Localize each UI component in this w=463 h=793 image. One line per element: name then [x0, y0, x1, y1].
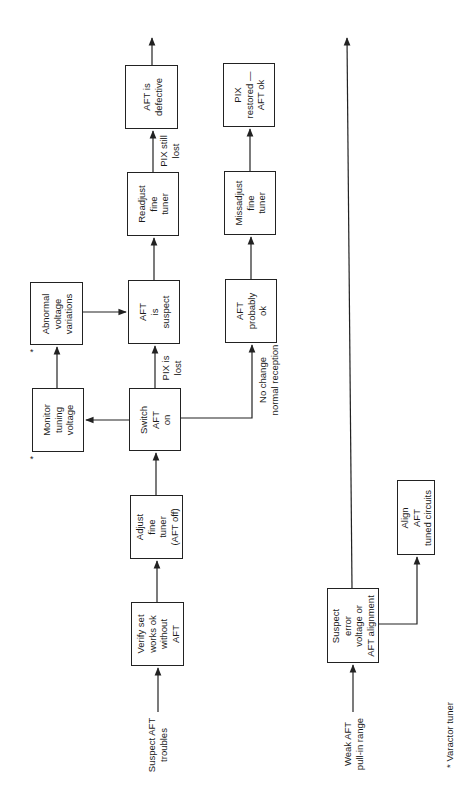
box-adjust-fine-tuner-text: Adjust fine tuner (AFT off) — [134, 508, 180, 545]
footnote-varactor-tuner: * Varactor tuner — [440, 700, 460, 770]
box-aft-is-suspect-text: AFT is suspect — [137, 296, 172, 329]
box-abnormal-voltage-text: Abnormal voltage variations — [39, 293, 74, 334]
box-missadjust-fine-tuner-text: Missadjust fine tuner — [233, 181, 268, 226]
edge-label-pix-is-lost-text: PIX is lost — [160, 356, 183, 381]
footnote-varactor-tuner-text: * Varactor tuner — [444, 702, 456, 768]
box-monitor-tuning-voltage-text: Monitor tuning voltage — [41, 404, 76, 436]
box-verify-set-text: Verify set works ok without AFT — [135, 614, 181, 653]
edge-label-pix-still-lost: PIX still lost — [156, 132, 182, 170]
box-suspect-error-voltage-text: Suspect error voltage or AFT alignment — [330, 595, 376, 657]
box-pix-restored: PIX restored — AFT ok — [223, 63, 275, 127]
box-aft-is-defective: AFT is defective — [125, 65, 178, 129]
asterisk-marker-monitor: * — [30, 455, 34, 464]
box-align-aft: Align AFT tuned circuits — [397, 480, 435, 555]
box-abnormal-voltage: Abnormal voltage variations — [30, 282, 83, 345]
box-switch-aft-on: Switch AFT on — [129, 388, 181, 451]
input-weak-aft-pull-in-text: Weak AFT pull-in range — [342, 718, 365, 770]
box-adjust-fine-tuner: Adjust fine tuner (AFT off) — [130, 495, 183, 559]
box-monitor-tuning-voltage: Monitor tuning voltage — [32, 388, 84, 452]
edge-label-pix-still-lost-text: PIX still lost — [158, 135, 181, 167]
box-pix-restored-text: PIX restored — AFT ok — [232, 72, 267, 119]
edge-label-no-change-text: No change normal reception — [257, 345, 280, 416]
box-aft-is-suspect: AFT is suspect — [128, 280, 180, 344]
input-suspect-aft-troubles-text: Suspect AFT troubles — [146, 718, 169, 772]
edge-label-no-change: No change normal reception — [255, 346, 281, 414]
box-verify-set: Verify set works ok without AFT — [131, 602, 184, 666]
box-aft-probably-ok-text: AFT probably ok — [234, 293, 269, 329]
box-suspect-error-voltage: Suspect error voltage or AFT alignment — [327, 588, 379, 663]
flowchart-canvas: Verify set works ok without AFT Adjust f… — [0, 0, 463, 793]
asterisk-marker-abnormal: * — [30, 348, 34, 357]
box-readjust-fine-tuner-text: Readjust fine tuner — [136, 185, 171, 223]
box-readjust-fine-tuner: Readjust fine tuner — [127, 172, 179, 236]
box-align-aft-text: Align AFT tuned circuits — [399, 490, 434, 546]
edge-label-pix-is-lost: PIX is lost — [158, 350, 184, 386]
input-weak-aft-pull-in: Weak AFT pull-in range — [338, 713, 368, 775]
box-switch-aft-on-text: Switch AFT on — [138, 406, 173, 434]
box-aft-probably-ok: AFT probably ok — [225, 279, 277, 343]
box-aft-is-defective-text: AFT is defective — [140, 78, 163, 116]
input-suspect-aft-troubles: Suspect AFT troubles — [142, 713, 172, 777]
box-missadjust-fine-tuner: Missadjust fine tuner — [224, 171, 276, 235]
